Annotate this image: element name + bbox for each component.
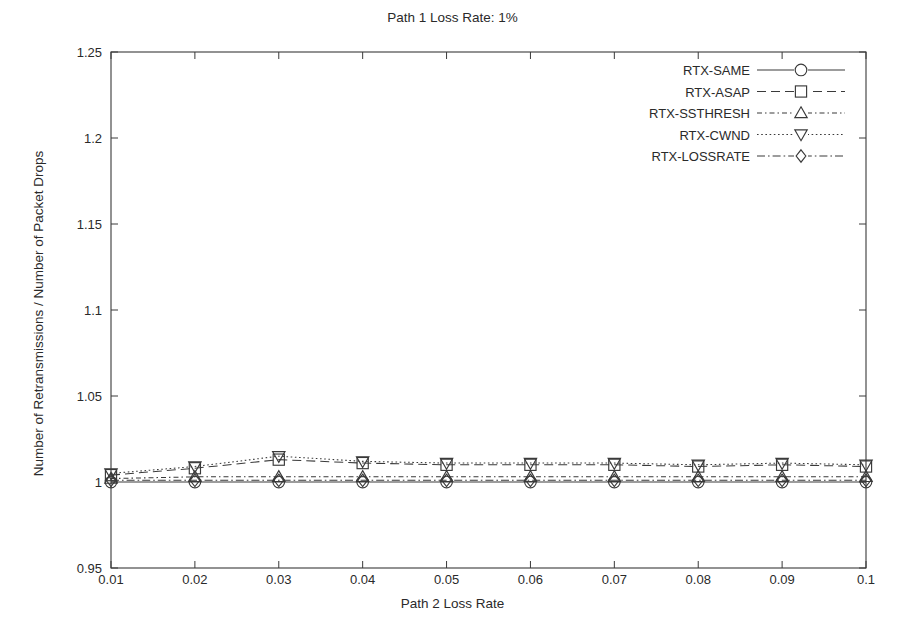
data-point-marker bbox=[795, 86, 806, 97]
legend-sample-rtx-lossrate bbox=[757, 149, 845, 163]
series-rtx-same bbox=[105, 476, 872, 488]
chart-figure: Path 1 Loss Rate: 1% Path 2 Loss Rate Nu… bbox=[0, 0, 905, 636]
legend-sample-rtx-ssthresh bbox=[757, 106, 845, 120]
series-rtx-lossrate bbox=[106, 474, 871, 486]
data-point-marker bbox=[795, 64, 807, 76]
plot-frame bbox=[111, 52, 866, 568]
series-rtx-ssthresh bbox=[105, 471, 872, 484]
plot-area bbox=[0, 0, 905, 636]
legend-sample-rtx-asap bbox=[757, 85, 845, 99]
series-line bbox=[111, 477, 866, 479]
legend-sample-rtx-same bbox=[757, 63, 845, 77]
series-line bbox=[111, 460, 866, 475]
legend-sample-rtx-cwnd bbox=[757, 128, 845, 142]
